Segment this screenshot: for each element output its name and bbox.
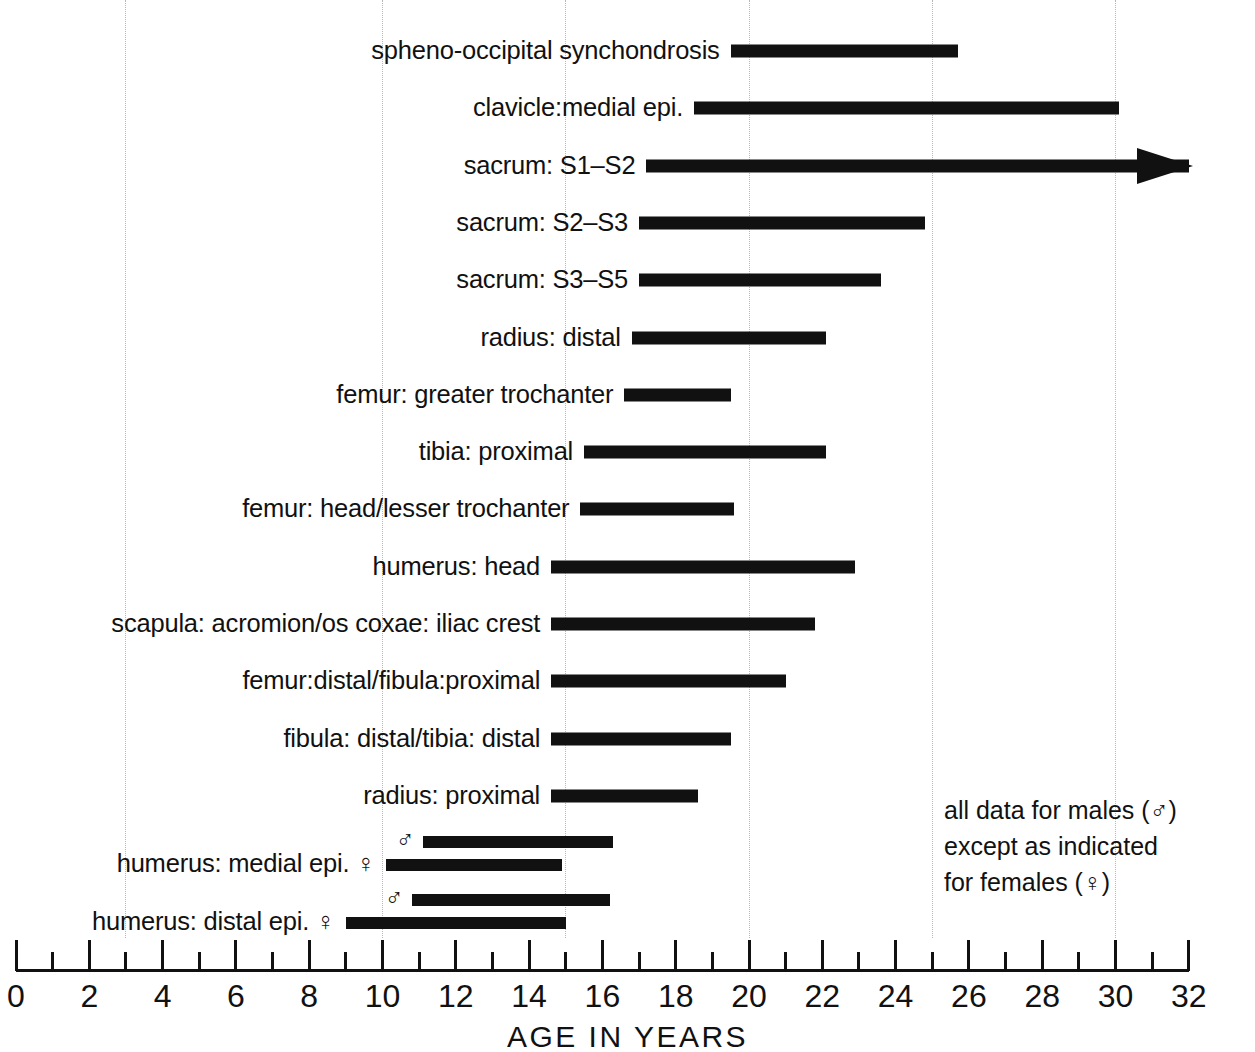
gridline-25 xyxy=(932,0,934,938)
axis-tick-2 xyxy=(88,940,91,971)
legend-note-line-3: for females (♀) xyxy=(944,864,1177,900)
range-bar-male xyxy=(551,732,731,745)
axis-tick-3 xyxy=(124,952,127,971)
range-bar-male xyxy=(584,446,826,459)
range-bar-male xyxy=(694,102,1119,115)
gridline-20 xyxy=(749,0,751,938)
row-label: radius: proximal xyxy=(363,783,540,809)
axis-tick-21 xyxy=(784,952,787,971)
open-ended-arrow-icon xyxy=(1137,148,1193,184)
axis-tick-14 xyxy=(528,940,531,971)
axis-tick-label-8: 8 xyxy=(300,980,318,1012)
axis-tick-27 xyxy=(1004,952,1007,971)
range-bar-male xyxy=(624,388,730,401)
male-symbol-icon: ♂ xyxy=(396,827,415,852)
chart-row: sacrum: S3–S5 xyxy=(0,280,1255,281)
axis-tick-9 xyxy=(344,952,347,971)
range-bar-male xyxy=(731,45,958,58)
row-label: femur: head/lesser trochanter xyxy=(242,497,569,523)
chart-row: scapula: acromion/os coxae: iliac crest xyxy=(0,624,1255,625)
axis-tick-16 xyxy=(601,940,604,971)
range-bar-male xyxy=(639,216,925,229)
axis-tick-label-12: 12 xyxy=(438,980,474,1012)
x-axis: AGE IN YEARS 024681012141618202224262830… xyxy=(0,938,1255,1052)
row-label: fibula: distal/tibia: distal xyxy=(283,726,540,752)
x-axis-title: AGE IN YEARS xyxy=(0,1020,1255,1052)
chart-row: clavicle:medial epi. xyxy=(0,108,1255,109)
axis-tick-label-20: 20 xyxy=(731,980,767,1012)
legend-note-line-1: all data for males (♂) xyxy=(944,792,1177,828)
axis-tick-4 xyxy=(161,940,164,971)
range-bar-female xyxy=(346,917,566,929)
chart-row: femur:distal/fibula:proximal xyxy=(0,681,1255,682)
male-symbol-icon: ♂ xyxy=(385,884,404,909)
range-bar-male xyxy=(551,618,815,631)
range-bar-male xyxy=(551,789,698,802)
axis-tick-label-2: 2 xyxy=(80,980,98,1012)
row-label: femur: greater trochanter xyxy=(336,382,613,408)
legend-note: all data for males (♂) except as indicat… xyxy=(944,792,1177,900)
axis-tick-20 xyxy=(748,940,751,971)
axis-tick-label-0: 0 xyxy=(7,980,25,1012)
axis-tick-32 xyxy=(1187,940,1190,971)
axis-tick-24 xyxy=(894,940,897,971)
axis-tick-19 xyxy=(711,952,714,971)
axis-tick-label-24: 24 xyxy=(878,980,914,1012)
axis-tick-10 xyxy=(381,940,384,971)
row-label: humerus: distal epi. ♀ xyxy=(92,909,335,935)
axis-tick-23 xyxy=(857,952,860,971)
axis-tick-11 xyxy=(418,952,421,971)
axis-tick-6 xyxy=(234,940,237,971)
chart-row: femur: head/lesser trochanter xyxy=(0,509,1255,510)
axis-tick-label-18: 18 xyxy=(658,980,694,1012)
axis-tick-8 xyxy=(308,940,311,971)
row-label: sacrum: S3–S5 xyxy=(456,267,628,293)
range-bar-male xyxy=(551,675,786,688)
row-label: femur:distal/fibula:proximal xyxy=(242,669,540,695)
axis-tick-label-30: 30 xyxy=(1098,980,1134,1012)
axis-tick-7 xyxy=(271,952,274,971)
axis-tick-25 xyxy=(931,952,934,971)
row-label: scapula: acromion/os coxae: iliac crest xyxy=(111,611,540,637)
range-bar-male xyxy=(551,560,855,573)
range-bar-male xyxy=(632,331,826,344)
axis-tick-label-16: 16 xyxy=(585,980,621,1012)
row-label: sacrum: S1–S2 xyxy=(464,153,636,179)
chart-row: tibia: proximal xyxy=(0,452,1255,453)
row-label: sacrum: S2–S3 xyxy=(456,210,628,236)
legend-note-line-2: except as indicated xyxy=(944,828,1177,864)
axis-tick-0 xyxy=(15,940,18,971)
axis-tick-30 xyxy=(1114,940,1117,971)
axis-tick-18 xyxy=(674,940,677,971)
range-bar-male xyxy=(412,894,610,906)
chart-row: humerus: head xyxy=(0,567,1255,568)
chart-row: femur: greater trochanter xyxy=(0,395,1255,396)
row-label: humerus: head xyxy=(373,554,541,580)
axis-tick-28 xyxy=(1041,940,1044,971)
axis-tick-label-14: 14 xyxy=(511,980,547,1012)
axis-tick-26 xyxy=(967,940,970,971)
axis-tick-label-4: 4 xyxy=(154,980,172,1012)
chart-row: humerus: distal epi. ♀♂ xyxy=(0,911,1255,912)
axis-tick-22 xyxy=(821,940,824,971)
axis-tick-1 xyxy=(51,952,54,971)
axis-tick-29 xyxy=(1077,952,1080,971)
axis-tick-13 xyxy=(491,952,494,971)
axis-tick-label-6: 6 xyxy=(227,980,245,1012)
chart-row: spheno-occipital synchondrosis xyxy=(0,51,1255,52)
row-label: radius: distal xyxy=(480,325,620,351)
axis-tick-label-26: 26 xyxy=(951,980,987,1012)
axis-tick-15 xyxy=(564,952,567,971)
range-bar-female xyxy=(386,859,562,871)
chart-row: radius: distal xyxy=(0,338,1255,339)
axis-tick-17 xyxy=(638,952,641,971)
chart-row: sacrum: S2–S3 xyxy=(0,223,1255,224)
range-bar-male xyxy=(423,836,614,848)
axis-tick-label-22: 22 xyxy=(805,980,841,1012)
chart-row: sacrum: S1–S2 xyxy=(0,166,1255,167)
axis-tick-label-10: 10 xyxy=(365,980,401,1012)
row-label: humerus: medial epi. ♀ xyxy=(117,851,376,877)
axis-tick-label-28: 28 xyxy=(1024,980,1060,1012)
epiphyseal-fusion-chart: spheno-occipital synchondrosisclavicle:m… xyxy=(0,0,1255,1052)
axis-tick-label-32: 32 xyxy=(1171,980,1207,1012)
